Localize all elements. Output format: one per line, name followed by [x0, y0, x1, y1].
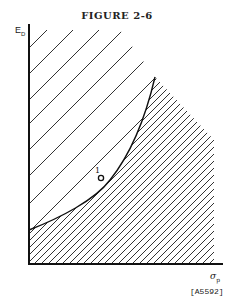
x-axis-label-sub: p	[216, 276, 220, 283]
reference-code: [A5592]	[190, 287, 224, 296]
point-1-marker	[98, 175, 103, 180]
diagram	[0, 0, 234, 301]
point-1-label: 1	[95, 166, 100, 175]
curve	[29, 77, 155, 230]
x-axis-label: σp	[210, 271, 220, 283]
dense-hatch	[20, 50, 234, 264]
